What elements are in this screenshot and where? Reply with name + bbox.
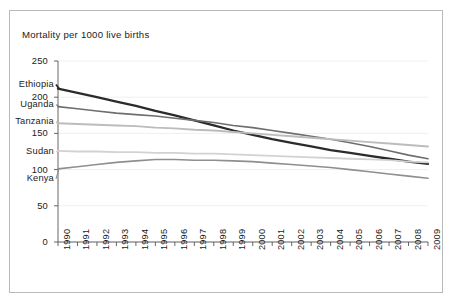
series-label-sudan: Sudan: [0, 146, 54, 156]
series-label-tanzania: Tanzania: [0, 116, 54, 126]
series-leader-kenya: [56, 169, 59, 179]
x-tick-label: 1991: [81, 229, 91, 250]
chart-figure: Mortality per 1000 live births 050100150…: [0, 0, 453, 304]
x-tick-label: 1992: [101, 229, 111, 250]
series-line-kenya: [58, 159, 428, 178]
y-tick-label: 150: [22, 127, 48, 138]
x-tick-label: 2009: [432, 229, 442, 250]
x-tick-label: 2000: [257, 229, 267, 250]
series-leader-ethiopia: [56, 85, 59, 89]
x-tick-label: 1997: [198, 229, 208, 250]
x-tick-label: 1994: [140, 229, 150, 250]
label-leader-lines-group: [56, 85, 59, 179]
x-tick-label: 1990: [62, 229, 72, 250]
series-leader-tanzania: [56, 122, 59, 123]
series-label-ethiopia: Ethiopia: [0, 79, 54, 89]
x-tick-label: 2001: [276, 229, 286, 250]
x-tick-label: 2005: [354, 229, 364, 250]
line-chart-plot: [0, 0, 453, 304]
x-tick-label: 2003: [315, 229, 325, 250]
y-tick-label: 0: [22, 236, 48, 247]
x-tick-label: 1999: [237, 229, 247, 250]
x-tick-label: 1995: [159, 229, 169, 250]
x-tick-label: 2006: [374, 229, 384, 250]
x-tick-label: 2007: [393, 229, 403, 250]
x-tick-label: 1996: [179, 229, 189, 250]
x-tick-label: 1998: [218, 229, 228, 250]
x-tick-label: 1993: [120, 229, 130, 250]
x-tick-label: 2008: [413, 229, 423, 250]
y-tick-label: 50: [22, 200, 48, 211]
x-tick-label: 2002: [296, 229, 306, 250]
series-label-uganda: Uganda: [0, 99, 54, 109]
series-label-kenya: Kenya: [0, 173, 54, 183]
x-tick-label: 2004: [335, 229, 345, 250]
y-tick-label: 250: [22, 55, 48, 66]
